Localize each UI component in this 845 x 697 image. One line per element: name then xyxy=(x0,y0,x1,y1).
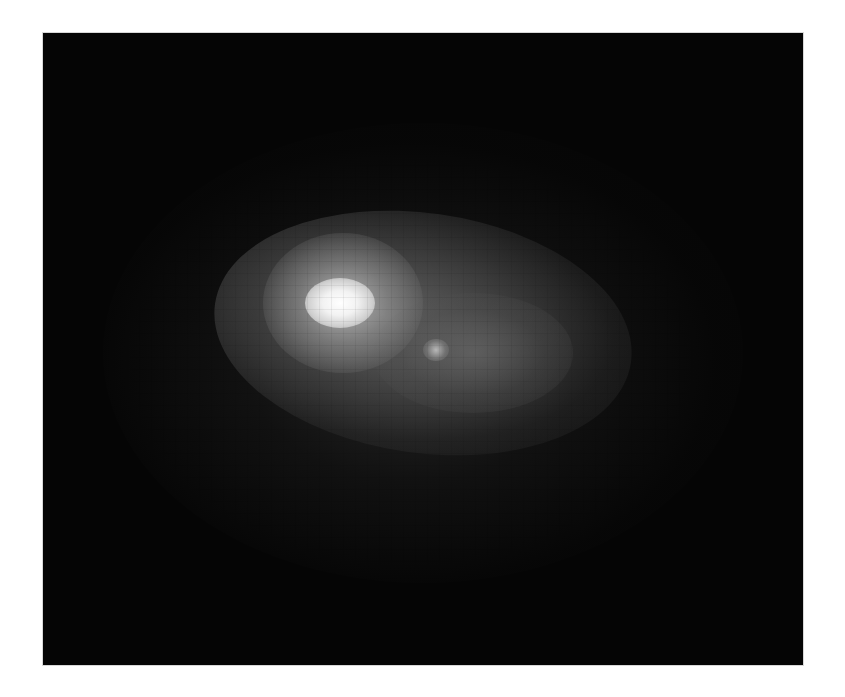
secondary-knot xyxy=(423,339,449,361)
bright-core xyxy=(305,278,375,328)
astronomical-image: Pixelated grayscale astronomical image o… xyxy=(43,33,803,665)
